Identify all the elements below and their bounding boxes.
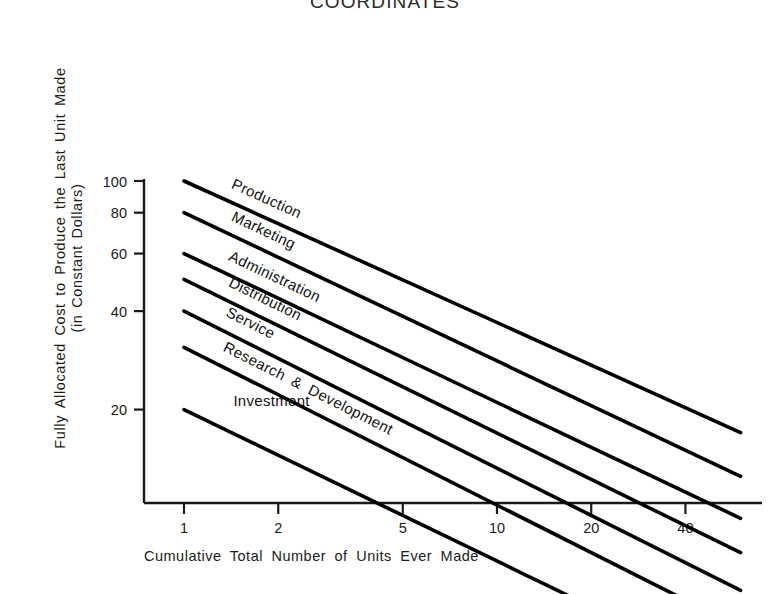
chart-canvas: COORDINATES Fully Allocated Cost to Prod… xyxy=(0,0,770,594)
y-tick-label: 100 xyxy=(103,174,127,190)
y-tick-label: 40 xyxy=(111,304,127,320)
x-tick-label: 2 xyxy=(274,520,282,536)
x-tick-label: 5 xyxy=(399,520,407,536)
y-tick-label: 60 xyxy=(111,246,127,262)
series-line xyxy=(184,213,741,477)
series-curves xyxy=(184,181,741,594)
x-tick-label: 20 xyxy=(583,520,599,536)
series-label: Research & Development xyxy=(221,338,397,438)
y-tick-label: 20 xyxy=(111,402,127,418)
series-labels: ProductionMarketingAdministrationDistrib… xyxy=(221,175,397,438)
y-axis-ticks: 20406080100 xyxy=(103,174,144,419)
series-label: Investment xyxy=(233,392,310,409)
x-tick-label: 10 xyxy=(489,520,505,536)
plot-area: 20406080100 125102040 ProductionMarketin… xyxy=(0,0,770,594)
y-tick-label: 80 xyxy=(111,205,127,221)
x-tick-label: 1 xyxy=(180,520,188,536)
